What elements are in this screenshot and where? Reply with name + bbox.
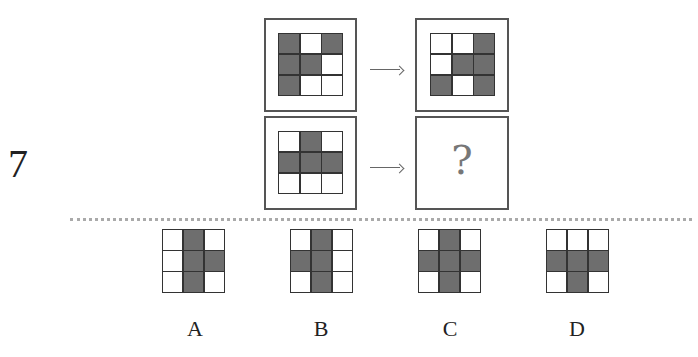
shaded-cell-r2c2 bbox=[184, 251, 203, 271]
shaded-cell-r3c3 bbox=[474, 76, 494, 95]
empty-cell-r3c3 bbox=[322, 174, 342, 193]
option-label-c[interactable]: C bbox=[435, 316, 465, 342]
empty-cell-r1c2 bbox=[301, 34, 321, 53]
shaded-cell-r2c1 bbox=[547, 251, 566, 271]
shaded-cell-r2c2 bbox=[301, 153, 321, 172]
shaded-cell-r1c2 bbox=[301, 132, 321, 151]
option-grid-b[interactable] bbox=[290, 229, 353, 293]
stimulus-grid-pair-1-result bbox=[430, 33, 495, 96]
empty-cell-r3c3 bbox=[461, 272, 480, 292]
shaded-cell-r2c3 bbox=[589, 251, 608, 271]
shaded-cell-r2c2 bbox=[440, 251, 459, 271]
empty-cell-r3c3 bbox=[333, 272, 352, 292]
empty-cell-r1c3 bbox=[461, 230, 480, 250]
shaded-cell-r3c2 bbox=[184, 272, 203, 292]
empty-cell-r1c1 bbox=[431, 34, 451, 53]
shaded-cell-r1c3 bbox=[474, 34, 494, 53]
shaded-cell-r2c2 bbox=[301, 55, 321, 74]
empty-cell-r2c3 bbox=[322, 55, 342, 74]
empty-cell-r1c2 bbox=[568, 230, 587, 250]
empty-cell-r2c3 bbox=[333, 251, 352, 271]
empty-cell-r3c1 bbox=[547, 272, 566, 292]
option-label-a[interactable]: A bbox=[180, 316, 210, 342]
shaded-cell-r1c1 bbox=[279, 34, 299, 53]
shaded-cell-r2c1 bbox=[291, 251, 310, 271]
empty-cell-r1c3 bbox=[333, 230, 352, 250]
arrow-right-icon bbox=[370, 163, 404, 173]
empty-cell-r1c3 bbox=[205, 230, 224, 250]
empty-cell-r2c1 bbox=[431, 55, 451, 74]
shaded-cell-r2c3 bbox=[205, 251, 224, 271]
shaded-cell-r2c3 bbox=[474, 55, 494, 74]
empty-cell-r1c2 bbox=[453, 34, 473, 53]
empty-cell-r3c1 bbox=[163, 272, 182, 292]
option-label-b[interactable]: B bbox=[306, 316, 336, 342]
empty-cell-r3c1 bbox=[279, 174, 299, 193]
option-grid-c[interactable] bbox=[418, 229, 481, 293]
shaded-cell-r1c3 bbox=[322, 34, 342, 53]
stimulus-grid-pair-1-source bbox=[278, 33, 343, 96]
dotted-divider bbox=[70, 218, 692, 221]
shaded-cell-r2c3 bbox=[322, 153, 342, 172]
stimulus-grid-pair-2-source bbox=[278, 131, 343, 194]
empty-cell-r3c2 bbox=[453, 76, 473, 95]
shaded-cell-r2c2 bbox=[568, 251, 587, 271]
shaded-cell-r2c2 bbox=[312, 251, 331, 271]
empty-cell-r3c2 bbox=[301, 174, 321, 193]
question-number: 7 bbox=[8, 140, 28, 187]
empty-cell-r1c3 bbox=[322, 132, 342, 151]
empty-cell-r1c3 bbox=[589, 230, 608, 250]
question-mark: ? bbox=[415, 137, 509, 183]
empty-cell-r3c3 bbox=[322, 76, 342, 95]
empty-cell-r1c1 bbox=[291, 230, 310, 250]
shaded-cell-r2c1 bbox=[419, 251, 438, 271]
shaded-cell-r2c1 bbox=[279, 153, 299, 172]
shaded-cell-r2c3 bbox=[461, 251, 480, 271]
empty-cell-r3c3 bbox=[589, 272, 608, 292]
option-grid-d[interactable] bbox=[546, 229, 609, 293]
shaded-cell-r1c2 bbox=[312, 230, 331, 250]
shaded-cell-r1c2 bbox=[440, 230, 459, 250]
option-grid-a[interactable] bbox=[162, 229, 225, 293]
option-label-d[interactable]: D bbox=[562, 316, 592, 342]
arrow-right-icon bbox=[370, 65, 404, 75]
empty-cell-r3c2 bbox=[301, 76, 321, 95]
empty-cell-r1c1 bbox=[547, 230, 566, 250]
shaded-cell-r3c1 bbox=[279, 76, 299, 95]
empty-cell-r3c3 bbox=[205, 272, 224, 292]
shaded-cell-r3c1 bbox=[431, 76, 451, 95]
empty-cell-r3c1 bbox=[419, 272, 438, 292]
shaded-cell-r1c2 bbox=[184, 230, 203, 250]
shaded-cell-r3c2 bbox=[312, 272, 331, 292]
shaded-cell-r2c1 bbox=[279, 55, 299, 74]
shaded-cell-r3c2 bbox=[568, 272, 587, 292]
empty-cell-r1c1 bbox=[279, 132, 299, 151]
empty-cell-r1c1 bbox=[419, 230, 438, 250]
shaded-cell-r3c2 bbox=[440, 272, 459, 292]
empty-cell-r2c1 bbox=[163, 251, 182, 271]
shaded-cell-r2c2 bbox=[453, 55, 473, 74]
empty-cell-r3c1 bbox=[291, 272, 310, 292]
empty-cell-r1c1 bbox=[163, 230, 182, 250]
